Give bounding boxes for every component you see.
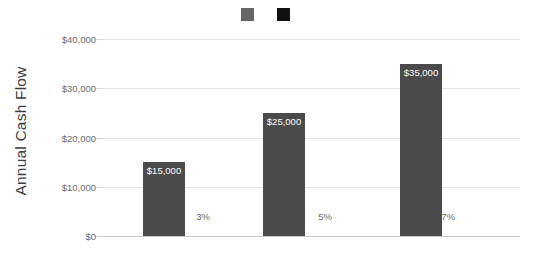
- bar-chart: Annual Cash Flow $0$10,000$20,000$30,000…: [0, 0, 535, 261]
- y-axis-tick-labels: $0$10,000$20,000$30,000$40,000: [42, 0, 100, 261]
- plot-area: $15,0003%$25,0005%$35,0007%: [103, 0, 520, 261]
- y-axis-tick-label: $0: [85, 231, 96, 242]
- category-percent-label: 3%: [196, 211, 210, 222]
- gridline: [103, 138, 520, 139]
- bar[interactable]: $35,000: [400, 64, 442, 236]
- axis-tick-mark: [96, 236, 103, 237]
- axis-tick-mark: [96, 138, 103, 139]
- y-axis-title-text: Annual Cash Flow: [11, 66, 29, 195]
- y-axis-tick-label: $20,000: [62, 132, 96, 143]
- bar[interactable]: $25,000: [263, 113, 305, 236]
- bar-value-label: $25,000: [263, 116, 305, 127]
- y-axis-tick-label: $40,000: [62, 34, 96, 45]
- bar[interactable]: $15,000: [143, 162, 185, 236]
- axis-tick-mark: [96, 187, 103, 188]
- axis-tick-mark: [96, 88, 103, 89]
- y-axis-title: Annual Cash Flow: [0, 0, 40, 261]
- gridline: [103, 39, 520, 40]
- gridline: [103, 236, 520, 237]
- axis-tick-mark: [96, 39, 103, 40]
- y-axis-tick-label: $10,000: [62, 181, 96, 192]
- category-percent-label: 5%: [318, 211, 332, 222]
- category-percent-label: 7%: [441, 211, 455, 222]
- bar-value-label: $15,000: [143, 165, 185, 176]
- bar-value-label: $35,000: [400, 67, 442, 78]
- y-axis-tick-label: $30,000: [62, 83, 96, 94]
- gridline: [103, 88, 520, 89]
